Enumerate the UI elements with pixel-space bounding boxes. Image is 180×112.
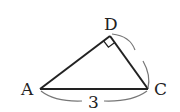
triangle-diagram: A D C 3: [0, 0, 180, 112]
brace-AC-left: [41, 91, 82, 101]
vertex-label-A: A: [21, 81, 33, 98]
vertex-label-C: C: [154, 81, 167, 98]
vertex-label-D: D: [104, 16, 118, 33]
side-AD: [40, 36, 110, 89]
side-DC: [110, 36, 148, 89]
brace-AC-right: [104, 91, 147, 101]
side-label-AC: 3: [88, 94, 99, 111]
